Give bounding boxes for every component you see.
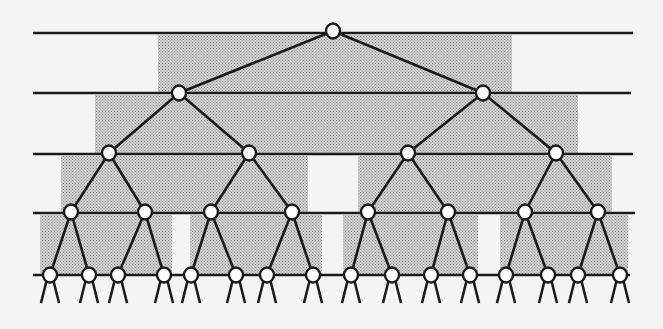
tree-node-icon	[344, 268, 358, 283]
tree-node-icon	[111, 268, 125, 283]
tree-diagram-canvas	[0, 0, 663, 329]
tree-node-icon	[242, 146, 256, 161]
tree-node-icon	[260, 268, 274, 283]
tree-node-icon	[463, 268, 477, 283]
tree-node-icon	[613, 268, 627, 283]
tree-node-icon	[306, 268, 320, 283]
shaded-band	[343, 215, 478, 275]
tree-node-icon	[591, 205, 605, 220]
tree-node-icon	[184, 268, 198, 283]
tree-node-icon	[82, 268, 96, 283]
tree-node-icon	[499, 268, 513, 283]
tree-node-icon	[541, 268, 555, 283]
tree-node-icon	[43, 268, 57, 283]
tree-node-icon	[285, 205, 299, 220]
tree-node-icon	[476, 86, 490, 101]
tree-node-icon	[549, 146, 563, 161]
tree-node-icon	[102, 146, 116, 161]
tree-node-icon	[229, 268, 243, 283]
tree-node-icon	[157, 268, 171, 283]
tree-node-icon	[138, 205, 152, 220]
tree-node-icon	[64, 205, 78, 220]
tree-node-icon	[204, 205, 218, 220]
tree-node-icon	[361, 205, 375, 220]
tree-node-icon	[518, 205, 532, 220]
tree-node-icon	[172, 86, 186, 101]
tree-node-icon	[326, 24, 340, 39]
tree-diagram	[0, 0, 663, 329]
shaded-band	[358, 156, 612, 213]
tree-node-icon	[424, 268, 438, 283]
tree-node-icon	[401, 146, 415, 161]
tree-node-icon	[571, 268, 585, 283]
tree-node-icon	[385, 268, 399, 283]
tree-node-icon	[441, 205, 455, 220]
